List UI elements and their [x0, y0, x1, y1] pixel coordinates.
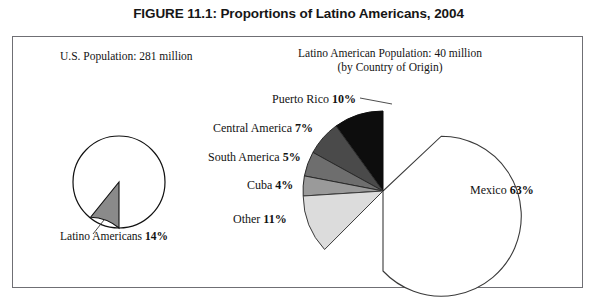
slice-label-other: Other 11% — [233, 212, 287, 227]
slice-label-mexico: Mexico 63% — [470, 183, 534, 198]
slice-label-puerto-rico: Puerto Rico 10% — [272, 92, 356, 107]
slice-label-latino-americans: Latino Americans 14% — [60, 230, 168, 242]
latino-population-caption-line1: Latino American Population: 40 million — [298, 46, 482, 60]
us-population-caption: U.S. Population: 281 million — [60, 49, 193, 63]
slice-label-central-america: Central America 7% — [213, 121, 313, 136]
figure-title: FIGURE 11.1: Proportions of Latino Ameri… — [0, 6, 597, 21]
slice-label-cuba: Cuba 4% — [247, 178, 293, 193]
figure-container: FIGURE 11.1: Proportions of Latino Ameri… — [0, 0, 597, 301]
latino-population-caption-line2: (by Country of Origin) — [298, 60, 482, 74]
latino-population-caption: Latino American Population: 40 million (… — [298, 46, 482, 74]
slice-label-south-america: South America 5% — [208, 150, 301, 165]
